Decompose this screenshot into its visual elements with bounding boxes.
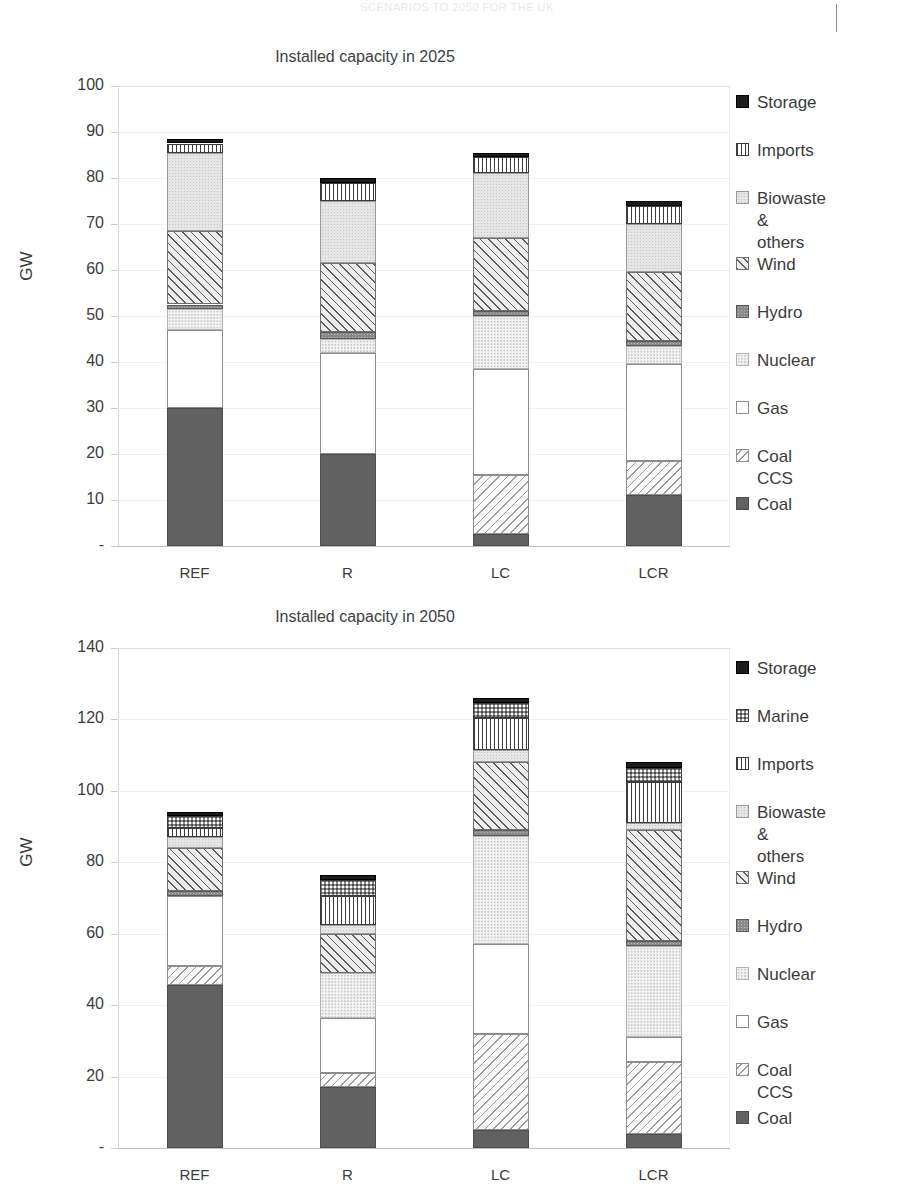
bar-segment-wind: [473, 238, 529, 312]
bar-segment-nuclear: [320, 973, 376, 1018]
chart-title: Installed capacity in 2025: [0, 48, 730, 66]
stacked-bar-ref: [167, 139, 223, 546]
y-tick-mark: [111, 362, 118, 363]
y-axis-label: GW: [17, 822, 37, 882]
stacked-bar-ref: [167, 812, 223, 1148]
bar-segment-gas: [473, 369, 529, 475]
legend-item-hydro[interactable]: Hydro: [736, 916, 802, 938]
gridline: [118, 132, 730, 133]
legend-label: Nuclear: [757, 350, 816, 372]
legend-item-storage[interactable]: Storage: [736, 658, 817, 680]
bar-segment-gas: [167, 330, 223, 408]
bar-segment-storage: [320, 178, 376, 183]
chart-title: Installed capacity in 2050: [0, 608, 730, 626]
bar-segment-biowaste: [320, 925, 376, 934]
x-tick-label: LC: [446, 564, 556, 581]
bar-segment-coal: [320, 1087, 376, 1148]
legend-swatch-storage-icon: [736, 95, 749, 108]
bar-segment-coal: [167, 985, 223, 1148]
legend-label: Gas: [757, 1012, 788, 1034]
legend-label: Gas: [757, 398, 788, 420]
gridline: [118, 648, 730, 649]
legend-item-coalccs[interactable]: Coal CCS: [736, 1060, 793, 1104]
bar-segment-nuclear: [473, 836, 529, 945]
legend-item-storage[interactable]: Storage: [736, 92, 817, 114]
y-tick-label: 40: [46, 999, 104, 1009]
x-axis-line: [118, 546, 730, 547]
legend-label: Wind: [757, 868, 796, 890]
legend-item-coal[interactable]: Coal: [736, 494, 792, 516]
bar-segment-biowaste: [167, 153, 223, 231]
bar-segment-wind: [167, 848, 223, 891]
bar-segment-imports: [473, 718, 529, 750]
bar-segment-coalccs: [473, 1034, 529, 1130]
x-tick-label: LCR: [599, 564, 709, 581]
bar-segment-hydro: [167, 305, 223, 310]
legend-item-nuclear[interactable]: Nuclear: [736, 350, 816, 372]
page-header: SCENARIOS TO 2050 FOR THE UK: [0, 0, 914, 22]
legend-swatch-imports-icon: [736, 757, 749, 770]
y-tick-label: 100: [46, 80, 104, 90]
bar-segment-biowaste: [320, 201, 376, 263]
x-tick-label: R: [293, 1166, 403, 1183]
legend-item-gas[interactable]: Gas: [736, 398, 788, 420]
legend-label: Wind: [757, 254, 796, 276]
bar-segment-wind: [320, 263, 376, 332]
legend-label: Marine: [757, 706, 809, 728]
legend-item-biowaste[interactable]: Biowaste & others: [736, 802, 826, 868]
stacked-bar-lc: [473, 153, 529, 546]
legend-item-gas[interactable]: Gas: [736, 1012, 788, 1034]
bar-segment-gas: [320, 353, 376, 454]
y-tick-mark: [111, 862, 118, 863]
legend-item-imports[interactable]: Imports: [736, 140, 814, 162]
y-tick-label: 80: [46, 172, 104, 182]
y-tick-mark: [111, 316, 118, 317]
y-tick-mark: [111, 1005, 118, 1006]
y-tick-label: 120: [46, 713, 104, 723]
legend-item-coal[interactable]: Coal: [736, 1108, 792, 1130]
y-tick-mark: [111, 178, 118, 179]
bar-segment-gas: [473, 944, 529, 1033]
bar-segment-marine: [626, 768, 682, 782]
bar-segment-storage: [626, 762, 682, 767]
bar-segment-imports: [167, 828, 223, 837]
y-tick-mark: [111, 224, 118, 225]
legend-swatch-wind-icon: [736, 257, 749, 270]
bar-segment-gas: [320, 1018, 376, 1073]
legend-swatch-gas-icon: [736, 1015, 749, 1028]
legend-label: Hydro: [757, 916, 802, 938]
legend-label: Imports: [757, 754, 814, 776]
bar-segment-wind: [626, 830, 682, 941]
legend-swatch-wind-icon: [736, 871, 749, 884]
header-divider: [836, 4, 837, 32]
legend-item-coalccs[interactable]: Coal CCS: [736, 446, 793, 490]
bar-segment-coal: [473, 534, 529, 546]
y-tick-label: -: [46, 1142, 104, 1152]
bar-segment-nuclear: [626, 946, 682, 1037]
legend-item-hydro[interactable]: Hydro: [736, 302, 802, 324]
legend-swatch-marine-icon: [736, 709, 749, 722]
bar-segment-wind: [473, 762, 529, 830]
y-tick-mark: [111, 270, 118, 271]
y-tick-label: -: [46, 540, 104, 550]
legend-item-wind[interactable]: Wind: [736, 868, 796, 890]
legend-label: Coal CCS: [757, 1060, 793, 1104]
legend-item-wind[interactable]: Wind: [736, 254, 796, 276]
x-tick-label: R: [293, 564, 403, 581]
y-tick-label: 90: [46, 126, 104, 136]
y-tick-label: 100: [46, 785, 104, 795]
y-tick-label: 50: [46, 310, 104, 320]
legend-swatch-biowaste-icon: [736, 191, 749, 204]
y-tick-label: 20: [46, 448, 104, 458]
legend-item-nuclear[interactable]: Nuclear: [736, 964, 816, 986]
legend-item-biowaste[interactable]: Biowaste & others: [736, 188, 826, 254]
y-tick-label: 40: [46, 356, 104, 366]
y-tick-mark: [111, 719, 118, 720]
y-tick-mark: [111, 500, 118, 501]
legend-item-imports[interactable]: Imports: [736, 754, 814, 776]
legend-label: Storage: [757, 658, 817, 680]
legend-item-marine[interactable]: Marine: [736, 706, 809, 728]
legend-label: Coal CCS: [757, 446, 793, 490]
y-tick-mark: [111, 454, 118, 455]
stacked-bar-r: [320, 875, 376, 1148]
